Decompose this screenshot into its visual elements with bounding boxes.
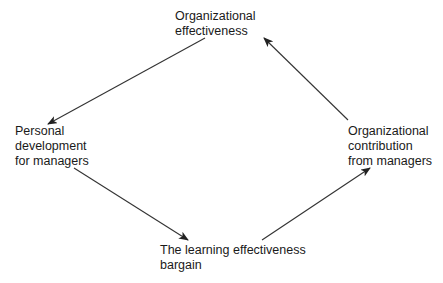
- arrow-bottom-to-right: [262, 168, 370, 240]
- node-label-line: The learning effectiveness: [160, 243, 306, 258]
- node-label-line: from managers: [348, 154, 432, 169]
- node-label-line: bargain: [160, 258, 306, 273]
- node-personal-development: Personal development for managers: [15, 124, 89, 169]
- node-label-line: Organizational: [348, 124, 432, 139]
- node-label-line: Organizational: [175, 9, 256, 24]
- node-organizational-effectiveness: Organizational effectiveness: [175, 9, 256, 39]
- arrow-right-to-top: [264, 38, 348, 120]
- node-label-line: Personal: [15, 124, 89, 139]
- node-label-line: development: [15, 139, 89, 154]
- node-learning-effectiveness-bargain: The learning effectiveness bargain: [160, 243, 306, 273]
- node-label-line: for managers: [15, 154, 89, 169]
- node-label-line: contribution: [348, 139, 432, 154]
- node-organizational-contribution: Organizational contribution from manager…: [348, 124, 432, 169]
- arrow-top-to-left: [48, 38, 205, 124]
- node-label-line: effectiveness: [175, 24, 256, 39]
- arrow-left-to-bottom: [74, 168, 188, 240]
- cycle-diagram: Organizational effectiveness Personal de…: [0, 0, 443, 283]
